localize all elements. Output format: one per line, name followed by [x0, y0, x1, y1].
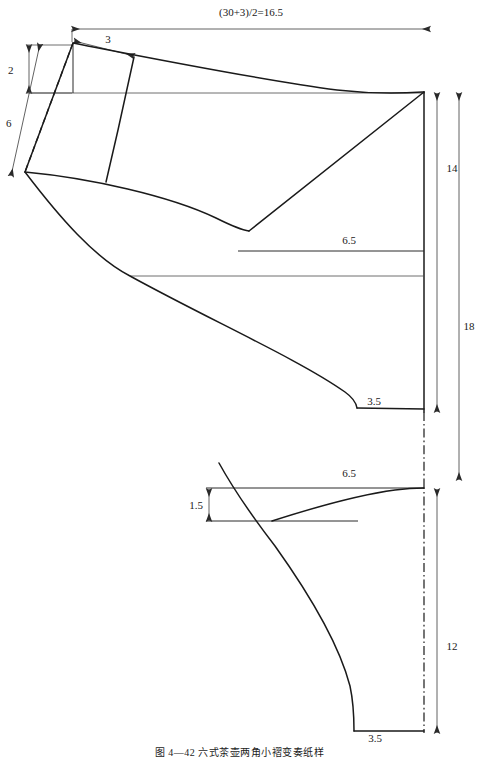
outline-underarm-curve [25, 172, 249, 231]
outline-upper-shoulder [73, 43, 424, 93]
label-right-18: 18 [464, 320, 476, 332]
dimension-top-width [72, 29, 430, 42]
drawing-sheet: (30+3)/2=16.5 3 2 6 14 6.5 18 3.5 6.5 1.… [0, 0, 479, 758]
dimension-neck-drop-2 [27, 45, 72, 93]
pattern-drawing: (30+3)/2=16.5 3 2 6 14 6.5 18 3.5 6.5 1.… [0, 0, 479, 758]
label-bottom-35: 3.5 [368, 732, 382, 744]
outline-lower-top-curve [272, 488, 424, 521]
figure-caption: 图 4—42 六式茶壶两角小褶变奏纸样 [0, 745, 479, 758]
label-mid-35: 3.5 [367, 395, 381, 407]
label-mid-65: 6.5 [342, 234, 356, 246]
label-top-width: (30+3)/2=16.5 [219, 6, 284, 19]
outline-left-front [25, 43, 73, 172]
label-right-12: 12 [447, 640, 458, 652]
seam-diagonal-right [249, 92, 424, 231]
label-neck-drop-2: 2 [8, 64, 14, 76]
label-front-rise-6: 6 [6, 117, 12, 129]
label-shoulder-3: 3 [105, 33, 111, 45]
label-lower-15: 1.5 [189, 499, 203, 511]
dimension-front-rise-6 [11, 44, 40, 176]
label-lower-65: 6.5 [342, 467, 356, 479]
outline-hem-upper [357, 408, 424, 409]
seam-panel-left [106, 57, 134, 182]
label-right-14: 14 [447, 162, 459, 174]
